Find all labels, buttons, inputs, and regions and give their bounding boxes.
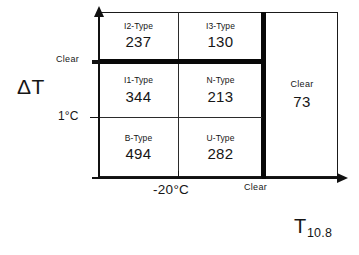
x-tick-clear [262,170,266,179]
x-axis-arrow-icon [337,173,348,183]
cell-type-label: I1-Type [124,76,153,85]
y-axis-line [98,14,100,179]
clear-panel-label: Clear [290,80,313,89]
x-tick-label-minus20c: -20°C [153,183,189,197]
y-tick-label-clear: Clear [56,55,79,64]
x-axis-title-main: T [294,215,306,237]
cell-b-type: B-Type 494 [99,118,178,177]
cell-count-value: 213 [207,89,233,104]
cell-count-value: 282 [207,146,233,161]
contingency-diagram: I2-Type 237 I3-Type 130 I1-Type 344 N-Ty… [0,0,359,255]
x-axis-title: T10.8 [294,216,332,236]
cell-type-label: I3-Type [206,22,235,31]
cell-n-type: N-Type 213 [180,63,261,117]
y-tick-label-1c: 1°C [58,110,79,122]
cell-type-label: B-Type [125,134,153,143]
cell-type-label: I2-Type [124,22,153,31]
x-axis-title-subscript: 10.8 [307,226,332,240]
clear-panel-count: 73 [293,94,311,109]
cell-count-value: 344 [125,89,151,104]
y-axis-arrow-icon [94,6,104,17]
cell-type-label: N-Type [207,76,235,85]
y-tick-clear [92,60,99,64]
cell-i2-type: I2-Type 237 [99,12,178,59]
cell-count-value: 237 [125,34,151,49]
column-divider-thick-clear [261,12,266,177]
x-tick-label-clear: Clear [244,183,267,192]
y-axis-title: ΔT [17,76,45,97]
cell-count-value: 494 [125,146,151,161]
cell-i1-type: I1-Type 344 [99,63,178,117]
cell-type-label: U-Type [207,134,235,143]
x-tick-minus20c [178,171,179,179]
cell-u-type: U-Type 282 [180,118,261,177]
cell-clear-panel: Clear 73 [266,12,338,177]
cell-i3-type: I3-Type 130 [180,12,261,59]
cell-count-value: 130 [207,34,233,49]
x-axis-line [92,177,342,179]
y-tick-1c [90,117,99,118]
